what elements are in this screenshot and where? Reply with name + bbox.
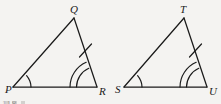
angle-arc-u-inner <box>187 68 199 87</box>
angle-arc-s <box>138 76 142 87</box>
geometry-figure: P Q R S T U 118 <box>0 0 221 104</box>
segment-tu <box>184 18 207 87</box>
vertex-label-u: U <box>209 85 218 97</box>
caption-fragment: 118 <box>2 100 17 104</box>
tick-mark-qr <box>80 44 92 57</box>
scan-speck <box>21 101 25 104</box>
tick-mark-tu <box>190 44 202 57</box>
vertex-label-r: R <box>98 85 106 97</box>
angle-arc-r-outer <box>70 62 86 87</box>
segment-st <box>124 18 184 87</box>
angle-arc-p <box>27 76 31 87</box>
segment-pq <box>13 18 74 87</box>
vertex-label-t: T <box>180 3 187 15</box>
angle-arc-r-inner <box>77 68 89 87</box>
vertex-label-s: S <box>115 83 121 95</box>
triangle-pqr: P Q R <box>4 3 106 97</box>
segment-qr <box>74 18 97 87</box>
triangle-stu: S T U <box>115 3 218 97</box>
vertex-label-q: Q <box>70 3 78 15</box>
angle-arc-u-outer <box>180 62 196 87</box>
triangles-canvas: P Q R S T U <box>0 0 221 104</box>
vertex-label-p: P <box>4 83 12 95</box>
